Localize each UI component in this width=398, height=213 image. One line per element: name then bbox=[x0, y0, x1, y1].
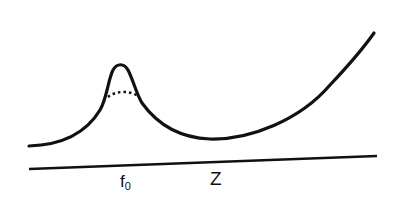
diagram-svg bbox=[0, 0, 398, 213]
f0-label-subscript: 0 bbox=[125, 180, 131, 192]
resonance-curve bbox=[29, 33, 374, 146]
z-label: Z bbox=[210, 168, 222, 190]
diagram-canvas: f0 Z bbox=[0, 0, 398, 213]
baseline-axis bbox=[29, 156, 377, 169]
dotted-arc bbox=[108, 92, 138, 97]
f0-label: f0 bbox=[120, 172, 131, 192]
